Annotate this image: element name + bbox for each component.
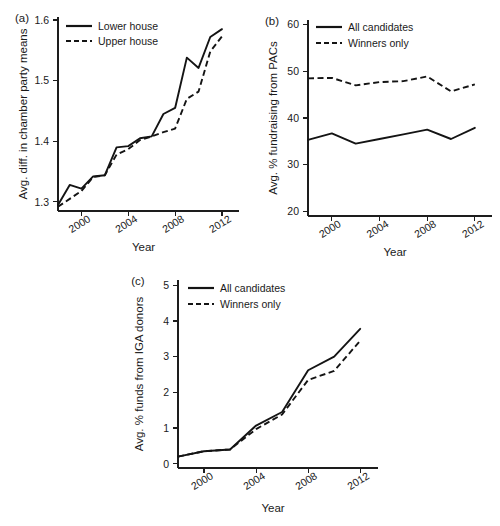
series-line-solid [178,329,360,457]
panel-letter: (b) [265,15,279,27]
y-tick-label: 40 [287,112,299,124]
y-tick-label: 60 [287,18,299,30]
series-line-dashed [308,76,475,91]
legend-label: Upper house [98,35,158,47]
y-axis-title: Avg. diff. in chamber party means [17,28,29,199]
y-tick-label: 30 [287,158,299,170]
series-line-dashed [58,36,222,206]
x-tick-label: 2008 [160,212,186,235]
y-tick-label: 2 [163,386,169,398]
x-axis-title: Year [383,246,406,258]
y-tick-label: 1.6 [34,14,49,26]
legend-label: All candidates [220,282,285,294]
y-tick-label: 5 [163,279,169,291]
figure-container: (a)1.31.41.51.62000200420082012YearAvg. … [0,0,500,526]
panel-b-chart: (b)20304050602000200420082012YearAvg. % … [250,0,500,262]
x-tick-label: 2000 [66,212,92,235]
panel-letter: (a) [15,12,29,24]
y-tick-label: 3 [163,350,169,362]
panel-a-chart: (a)1.31.41.51.62000200420082012YearAvg. … [0,0,250,262]
x-tick-label: 2012 [460,217,486,240]
x-tick-label: 2008 [293,469,319,492]
y-tick-label: 1 [163,422,169,434]
y-axis-title: Avg. % funds from IGA donors [133,297,145,452]
x-tick-label: 2004 [364,217,390,240]
series-line-solid [58,29,222,205]
legend-label: Lower house [98,20,158,32]
x-axis-title: Year [132,241,155,253]
panel-a-svg: (a)1.31.41.51.62000200420082012YearAvg. … [0,0,250,262]
x-tick-label: 2008 [412,217,438,240]
panel-c-svg: (c)0123452000200420082012YearAvg. % fund… [110,262,400,526]
legend-label: All candidates [348,21,413,33]
legend-label: Winners only [220,298,281,310]
y-tick-label: 1.3 [34,196,49,208]
y-tick-label: 1.4 [34,135,49,147]
x-tick-label: 2000 [189,469,215,492]
panel-b-svg: (b)20304050602000200420082012YearAvg. % … [250,0,500,262]
y-axis-title: Avg. % fundraising from PACs [267,41,279,195]
panel-c-chart: (c)0123452000200420082012YearAvg. % fund… [110,262,400,526]
x-tick-label: 2012 [345,469,371,492]
x-tick-label: 2004 [241,469,267,492]
x-axis-title: Year [261,502,284,514]
y-tick-label: 1.5 [34,74,49,86]
x-tick-label: 2004 [113,212,139,235]
panel-letter: (c) [131,275,145,287]
y-tick-label: 0 [163,458,169,470]
y-tick-label: 4 [163,315,169,327]
series-line-solid [308,128,475,144]
y-tick-label: 50 [287,65,299,77]
x-tick-label: 2000 [317,217,343,240]
legend-label: Winners only [348,37,409,49]
y-tick-label: 20 [287,205,299,217]
x-tick-label: 2012 [207,212,233,235]
